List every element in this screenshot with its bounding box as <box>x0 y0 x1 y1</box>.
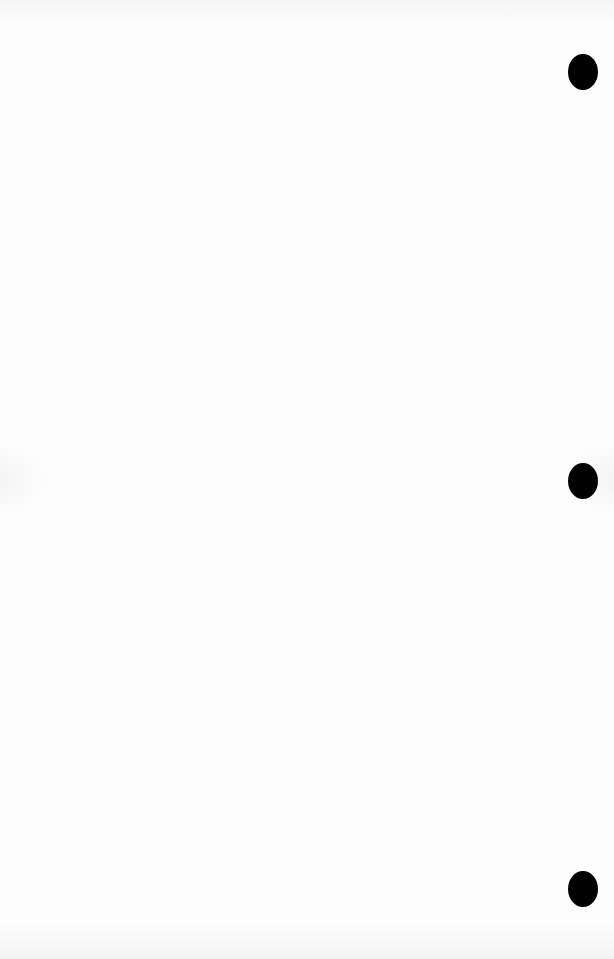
punch-hole <box>568 463 598 499</box>
blank-scanned-page <box>0 0 614 959</box>
punch-hole <box>568 871 598 907</box>
punch-hole <box>568 54 598 90</box>
